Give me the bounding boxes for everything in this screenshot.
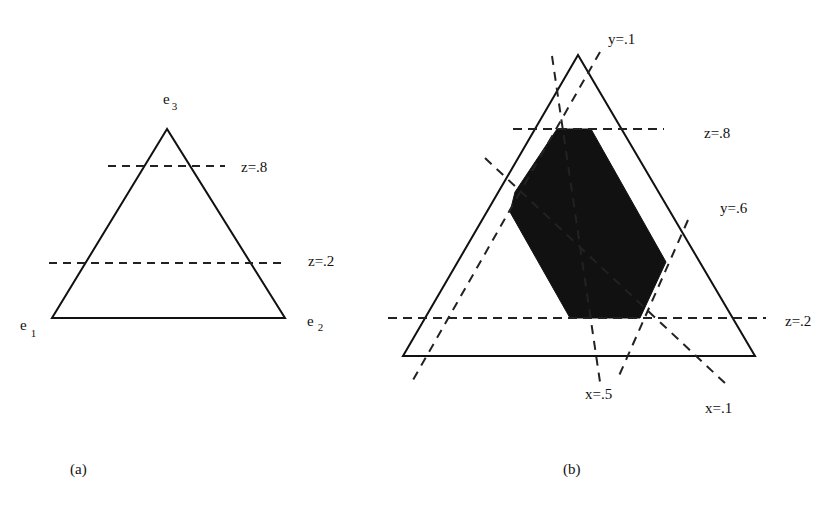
label-x-0.1: x=.1 — [705, 400, 732, 416]
caption-b: (b) — [563, 461, 581, 478]
vertex-label-e1: e1 — [20, 317, 36, 339]
label-z-0.8-b: z=.8 — [704, 125, 730, 141]
panel-b: y=.1 z=.8 y=.6 z=.2 x=.5 x=.1 (b) — [388, 31, 811, 478]
label-x-0.5: x=.5 — [585, 386, 612, 402]
vertex-label-e3: e3 — [163, 91, 178, 112]
feasible-region — [510, 129, 666, 318]
simplex-diagram: z=.8 z=.2 e3 e1 e2 (a) y=.1 z=.8 y=.6 z=… — [0, 0, 839, 510]
simplex-triangle-a — [52, 129, 285, 318]
label-z-0.2-a: z=.2 — [308, 253, 334, 269]
label-y-0.1: y=.1 — [608, 31, 635, 47]
panel-a: z=.8 z=.2 e3 e1 e2 (a) — [20, 91, 334, 478]
label-z-0.2-b: z=.2 — [785, 313, 811, 329]
vertex-label-e2: e2 — [307, 313, 323, 333]
label-z-0.8-a: z=.8 — [241, 159, 267, 175]
label-y-0.6: y=.6 — [720, 200, 748, 216]
caption-a: (a) — [70, 461, 87, 478]
